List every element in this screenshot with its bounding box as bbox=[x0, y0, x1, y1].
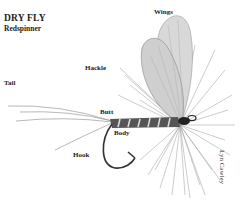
dry-fly-illustration bbox=[0, 0, 241, 202]
label-body: Body bbox=[114, 130, 130, 137]
label-hackle: Hackle bbox=[85, 65, 106, 72]
label-hook: Hook bbox=[73, 152, 89, 159]
wings bbox=[141, 16, 192, 122]
label-tail: Tail bbox=[4, 80, 15, 87]
label-wings: Wings bbox=[154, 9, 173, 16]
artist-credit: Lyn Cawley bbox=[218, 150, 226, 184]
tail-fibers bbox=[8, 106, 112, 150]
label-butt: Butt bbox=[100, 109, 113, 116]
